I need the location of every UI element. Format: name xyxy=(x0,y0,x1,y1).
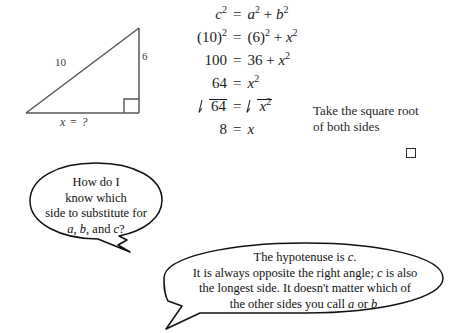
eq5-x-exp: 2 xyxy=(266,96,271,107)
worksheet-canvas: 10 6 x = ? c2 = a2 + b2 (10)2 = (6)2 + x… xyxy=(0,0,457,333)
bubble-two-line-3: the longest side. It doesn't matter whic… xyxy=(172,281,438,297)
equation-3-equals: = xyxy=(233,52,247,69)
bubble-two-line-2: It is always opposite the right angle; c… xyxy=(172,266,438,282)
bubble-one-sep-2: , and xyxy=(86,222,113,236)
equation-3-lhs: 100 xyxy=(163,52,233,69)
eq3-plus: + xyxy=(266,52,274,68)
eq2-plus: + xyxy=(274,29,282,45)
equation-5-rhs: x2 xyxy=(247,98,272,115)
equation-row-3: 100 = 36 + x2 xyxy=(163,52,313,75)
eq1-c-exp: 2 xyxy=(222,4,227,15)
equation-2-equals: = xyxy=(233,29,247,46)
speech-bubble-answer-text: The hypotenuse is c. It is always opposi… xyxy=(172,250,438,312)
eq4-x-exp: 2 xyxy=(254,73,259,84)
bubble-two-line2-pre: It is always opposite the right angle; xyxy=(193,266,377,280)
side-note: Take the square root of both sides xyxy=(313,103,419,135)
equation-6-lhs: 8 xyxy=(163,121,233,138)
base-label-variable: x xyxy=(60,115,66,129)
hypotenuse-label: 10 xyxy=(55,56,66,68)
bubble-one-line-1: How do I xyxy=(26,175,166,191)
equation-2-rhs: (6)2 + x2 xyxy=(247,29,297,46)
bubble-one-line-3: side to substitute for xyxy=(26,206,166,222)
sqrt-64-radical: 64 xyxy=(199,98,227,115)
sqrt-xsq-body: x2 xyxy=(258,98,272,114)
equation-4-rhs: x2 xyxy=(247,75,259,92)
equation-row-5: 64 = x2 xyxy=(163,98,313,121)
equation-2-lhs: (10)2 xyxy=(163,29,233,46)
equation-block: c2 = a2 + b2 (10)2 = (6)2 + x2 100 = 36 … xyxy=(163,6,313,144)
equation-row-1: c2 = a2 + b2 xyxy=(163,6,313,29)
equation-row-4: 64 = x2 xyxy=(163,75,313,98)
side-note-line-1: Take the square root xyxy=(313,103,419,119)
equation-row-6: 8 = x xyxy=(163,121,313,144)
eq1-c: c xyxy=(215,6,222,22)
bubble-one-line-2: know which xyxy=(26,191,166,207)
bubble-two-line4-end: . xyxy=(377,297,380,311)
equation-4-lhs: 64 xyxy=(163,75,233,92)
sqrt-xsq-radical: x2 xyxy=(247,98,272,115)
equation-5-equals: = xyxy=(233,98,247,115)
bubble-two-line-1: The hypotenuse is c. xyxy=(172,250,438,266)
bubble-two-line4-pre: the other sides you call xyxy=(230,297,348,311)
right-triangle-diagram: 10 6 x = ? xyxy=(8,14,183,134)
equation-row-2: (10)2 = (6)2 + x2 xyxy=(163,29,313,52)
eq2-x: x xyxy=(286,29,293,45)
eq1-a: a xyxy=(247,6,255,22)
eq2-ten-exp: 2 xyxy=(222,27,227,38)
equation-3-rhs: 36 + x2 xyxy=(247,52,290,69)
base-side-label: x = ? xyxy=(60,115,88,130)
eq1-a-exp: 2 xyxy=(255,4,260,15)
eq2-x-exp: 2 xyxy=(293,27,298,38)
bubble-two-line1-end: . xyxy=(353,250,356,264)
eq1-plus: + xyxy=(264,6,272,22)
sqrt-64-body: 64 xyxy=(210,98,227,114)
end-of-proof-square-icon xyxy=(406,148,416,158)
right-angle-icon xyxy=(124,99,139,113)
triangle-svg xyxy=(8,14,183,134)
equation-6-rhs: x xyxy=(247,121,254,138)
eq3-36: 36 xyxy=(247,52,262,68)
eq2-six: (6) xyxy=(247,29,265,45)
side-note-line-2: of both sides xyxy=(313,119,419,135)
base-label-rest: = ? xyxy=(69,115,88,129)
equation-1-rhs: a2 + b2 xyxy=(247,6,288,23)
bubble-one-qmark: ? xyxy=(119,222,125,236)
bubble-two-line1-pre: The hypotenuse is xyxy=(254,250,348,264)
eq1-b-exp: 2 xyxy=(283,4,288,15)
eq3-x-exp: 2 xyxy=(285,50,290,61)
equation-1-lhs: c2 xyxy=(163,6,233,23)
speech-bubble-answer: The hypotenuse is c. It is always opposi… xyxy=(160,240,450,333)
bubble-two-line-4: the other sides you call a or b. xyxy=(172,297,438,313)
equation-4-equals: = xyxy=(233,75,247,92)
equation-5-lhs: 64 xyxy=(163,98,233,115)
eq2-six-exp: 2 xyxy=(265,27,270,38)
bubble-two-line4-mid: or xyxy=(354,297,371,311)
bubble-one-line-4: a, b, and c? xyxy=(26,222,166,238)
eq2-ten: (10) xyxy=(197,29,222,45)
equation-6-equals: = xyxy=(233,121,247,138)
vertical-side-label: 6 xyxy=(142,50,148,62)
bubble-two-line2-end: is also xyxy=(383,266,418,280)
triangle-hypotenuse-line xyxy=(26,28,139,113)
speech-bubble-question: How do I know which side to substitute f… xyxy=(26,160,166,258)
speech-bubble-question-text: How do I know which side to substitute f… xyxy=(26,175,166,237)
equation-1-equals: = xyxy=(233,6,247,23)
